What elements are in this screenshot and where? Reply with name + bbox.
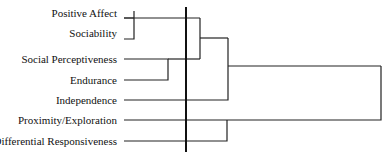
branch-pa-soc [124,11,134,39]
dendrogram-lines [0,0,388,153]
branch-independence [124,38,228,100]
branch-sp-end [124,59,168,80]
branch-differential [124,120,227,141]
branch-proximity [124,66,381,120]
